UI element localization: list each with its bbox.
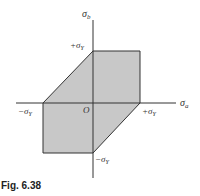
label-bottom: −σY (95, 154, 110, 165)
label-top: +σY (70, 40, 85, 51)
origin-label: O (83, 105, 90, 115)
yield-envelope-diagram: σb σa +σY −σY +σY −σY O (0, 0, 200, 196)
y-axis-label: σb (82, 8, 91, 21)
label-right: +σY (142, 106, 157, 117)
x-axis-label: σa (180, 97, 189, 110)
yield-region-hexagon (43, 51, 140, 153)
figure-caption: Fig. 6.38 (1, 180, 41, 191)
label-left: −σY (18, 106, 33, 117)
